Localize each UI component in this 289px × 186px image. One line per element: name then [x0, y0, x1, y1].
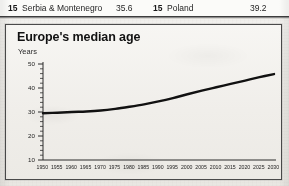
- x-axis-label: 1970: [94, 164, 106, 170]
- country-left: Serbia & Montenegro: [22, 1, 102, 15]
- x-axis-label: 1980: [123, 164, 135, 170]
- y-axis-label: 40: [21, 85, 35, 91]
- x-axis-label: 2020: [239, 164, 251, 170]
- x-axis-label: 2030: [268, 164, 280, 170]
- value-right: 39.2: [250, 1, 267, 15]
- y-axis-label: 30: [21, 109, 35, 115]
- x-axis-label: 1975: [109, 164, 121, 170]
- scanned-page: 15 Serbia & Montenegro 35.6 15 Poland 39…: [0, 0, 289, 186]
- x-axis-label: 2000: [181, 164, 193, 170]
- rank-left: 15: [8, 1, 17, 15]
- median-age-series: [43, 74, 274, 113]
- x-axis-label: 1955: [51, 164, 63, 170]
- x-axis-label: 1985: [138, 164, 150, 170]
- x-axis-label: 1960: [65, 164, 77, 170]
- x-axis-label: 2025: [253, 164, 265, 170]
- x-axis-label: 2015: [224, 164, 236, 170]
- y-axis-label: 20: [21, 133, 35, 139]
- x-axis-label: 1990: [152, 164, 164, 170]
- chart-svg: [6, 25, 283, 181]
- chart-plot-area: 1020304050195019551960196519701975198019…: [6, 25, 283, 181]
- chart-panel: Europe's median age Years 10203040501950…: [5, 24, 282, 180]
- country-right: Poland: [167, 1, 193, 15]
- ranking-row: 15 Serbia & Montenegro 35.6 15 Poland 39…: [0, 0, 289, 16]
- x-axis-label: 1950: [37, 164, 49, 170]
- x-axis-label: 2010: [210, 164, 222, 170]
- header-divider-shadow: [0, 18, 289, 19]
- x-axis-label: 2005: [195, 164, 207, 170]
- value-left: 35.6: [116, 1, 133, 15]
- x-axis-label: 1995: [166, 164, 178, 170]
- y-axis-label: 50: [21, 61, 35, 67]
- rank-right: 15: [153, 1, 162, 15]
- y-axis-label: 10: [21, 157, 35, 163]
- x-axis-label: 1965: [80, 164, 92, 170]
